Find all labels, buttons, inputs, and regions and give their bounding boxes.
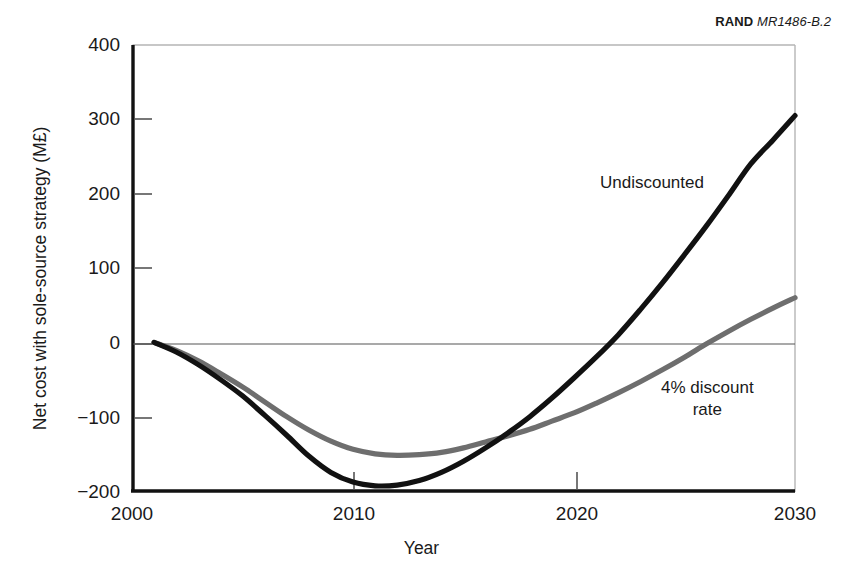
x-tick-label-2010: 2010 [333,503,375,525]
y-tick-label-100: 100 [58,257,120,279]
series-label-undiscounted: Undiscounted [600,172,704,194]
plot-background [132,45,795,492]
y-tick-label-400: 400 [58,34,120,56]
x-axis-label: Year [0,538,843,559]
source-note: RAND MR1486-B.2 [715,14,831,29]
x-tick-label-2020: 2020 [556,503,598,525]
y-tick-label-300: 300 [58,108,120,130]
plot-area [0,0,843,577]
y-tick-label-neg100: −100 [52,407,120,429]
x-tick-label-2000: 2000 [111,503,153,525]
chart-figure: RAND MR1486-B.2 Net cost with sole-sourc… [0,0,843,577]
y-axis-label: Net cost with sole-source strategy (M£) [30,69,51,489]
x-tick-label-2030: 2030 [774,503,816,525]
y-tick-label-neg200: −200 [52,481,120,503]
series-label-discount-rate: 4% discount rate [661,377,754,421]
source-doc-id: MR1486-B.2 [757,14,831,29]
source-brand: RAND [715,14,753,29]
y-tick-label-0: 0 [58,332,120,354]
y-tick-label-200: 200 [58,183,120,205]
